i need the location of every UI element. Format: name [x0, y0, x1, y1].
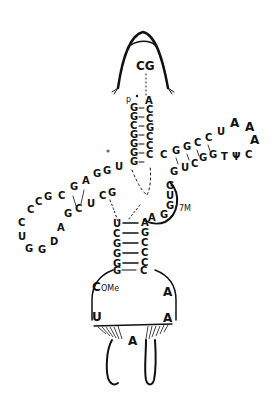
- svg-text:C: C: [140, 265, 147, 276]
- acceptor-stem: p G G C G G G G A C C G C C C: [126, 95, 154, 195]
- svg-text:U: U: [217, 126, 225, 137]
- svg-text:C: C: [18, 217, 25, 228]
- svg-text:*: *: [106, 149, 110, 158]
- anticodon-stem: U C G G G A G C C C: [110, 200, 149, 269]
- svg-text:A: A: [163, 285, 173, 299]
- svg-text:A: A: [250, 133, 260, 147]
- svg-text:A: A: [148, 212, 156, 223]
- svg-text:U: U: [115, 161, 123, 172]
- ome-label: OMe: [101, 284, 119, 293]
- svg-text:U: U: [87, 198, 95, 209]
- svg-text:U: U: [181, 162, 189, 173]
- svg-text:C: C: [146, 149, 153, 160]
- svg-text:G: G: [70, 181, 78, 192]
- svg-text:A: A: [163, 311, 173, 325]
- svg-text:U: U: [18, 231, 26, 242]
- trna-diagram: CG p G G C G G G G A C C G C C C * U G G…: [0, 0, 277, 416]
- svg-text:G: G: [108, 187, 116, 198]
- svg-text:C: C: [99, 190, 106, 201]
- svg-text:G: G: [25, 243, 33, 254]
- svg-text:C: C: [205, 132, 212, 143]
- svg-text:G: G: [38, 244, 46, 255]
- svg-text:G: G: [172, 145, 180, 156]
- svg-text:A: A: [230, 116, 240, 130]
- svg-text:A: A: [57, 222, 65, 233]
- svg-text:G: G: [93, 168, 101, 179]
- svg-text:T: T: [221, 151, 228, 162]
- d-arm: A G C G C U C G G A C C C U G G D A: [18, 175, 116, 255]
- svg-text:G: G: [44, 191, 52, 202]
- modification-label: 7M: [179, 204, 191, 213]
- svg-text:G: G: [103, 165, 111, 176]
- svg-text:C: C: [92, 280, 101, 294]
- anticodon-loop: G C C OMe U A A A: [92, 265, 176, 385]
- svg-text:C: C: [27, 204, 34, 215]
- svg-text:G: G: [64, 208, 72, 219]
- svg-text:A: A: [128, 334, 138, 348]
- svg-text:C: C: [75, 203, 82, 214]
- variable-loop: G U G G A 7M: [144, 180, 191, 224]
- junction: * U G G: [93, 149, 123, 179]
- svg-text:G: G: [170, 166, 178, 177]
- svg-text:C: C: [160, 149, 167, 160]
- svg-text:U: U: [92, 310, 102, 324]
- svg-text:Ψ: Ψ: [232, 151, 241, 162]
- svg-text:C: C: [35, 196, 42, 207]
- svg-text:A: A: [245, 120, 255, 134]
- svg-text:G: G: [199, 152, 207, 163]
- svg-text:C: C: [58, 190, 65, 201]
- svg-text:C: C: [194, 137, 201, 148]
- t-arm: C G G C C G U C G G U A A A C Ψ T: [160, 116, 260, 177]
- svg-text:G: G: [160, 209, 168, 220]
- svg-text:G: G: [130, 156, 138, 167]
- svg-text:G: G: [113, 265, 121, 276]
- svg-text:A: A: [82, 175, 90, 186]
- svg-text:C: C: [245, 149, 252, 160]
- svg-text:G: G: [183, 141, 191, 152]
- acceptor-cap: CG: [112, 32, 174, 97]
- svg-text:C: C: [191, 158, 198, 169]
- svg-text:D: D: [50, 236, 58, 247]
- cap-label: CG: [136, 59, 155, 73]
